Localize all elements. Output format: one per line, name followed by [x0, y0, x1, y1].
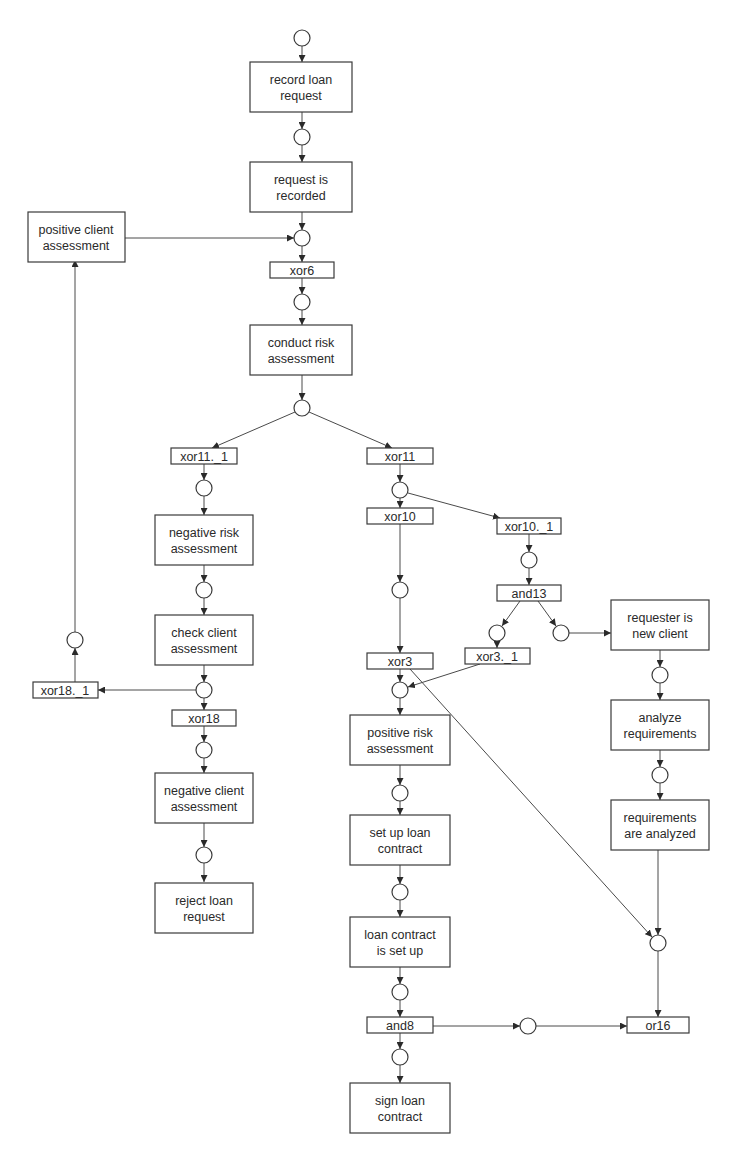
node-label: reject loan [175, 894, 233, 908]
node-label: contract [378, 1110, 423, 1124]
node-label: assessment [367, 742, 434, 756]
event-circle [520, 1018, 536, 1034]
node-label: record loan [270, 73, 333, 87]
event-circle [392, 984, 408, 1000]
event-circle [67, 632, 83, 648]
gate-xor3-1: xor3._1 [465, 648, 530, 664]
event-circle [553, 625, 569, 641]
gate-xor3: xor3 [367, 653, 433, 669]
node-label: assessment [171, 800, 238, 814]
event-circle [392, 884, 408, 900]
gate-label: xor10._1 [505, 520, 554, 534]
node-positive-risk-assessment: positive risk assessment [350, 715, 450, 765]
node-label: positive client [38, 223, 114, 237]
start-event-circle [294, 30, 310, 46]
gate-and8: and8 [367, 1017, 433, 1033]
event-circle [652, 767, 668, 783]
node-label: request [183, 910, 225, 924]
event-circle [392, 582, 408, 598]
gate-label: xor10 [384, 510, 415, 524]
gate-label: xor11 [385, 450, 415, 464]
gate-label: or16 [645, 1019, 670, 1033]
gate-label: xor18 [188, 712, 219, 726]
gate-label: xor18._1 [41, 684, 90, 698]
node-label: negative risk [169, 526, 240, 540]
node-label: negative client [164, 784, 244, 798]
gate-label: xor6 [290, 264, 314, 278]
node-positive-client-assessment: positive client assessment [28, 212, 125, 262]
event-circle [294, 129, 310, 145]
event-circle [392, 785, 408, 801]
node-label: loan contract [364, 928, 436, 942]
node-label: assessment [43, 239, 110, 253]
event-circle [652, 667, 668, 683]
event-circle [294, 400, 310, 416]
event-circle [196, 742, 212, 758]
gate-label: xor11._1 [180, 450, 228, 464]
node-sign-loan-contract: sign loan contract [350, 1083, 450, 1133]
node-label: are analyzed [624, 827, 696, 841]
gate-xor6: xor6 [270, 262, 334, 278]
node-label: contract [378, 842, 423, 856]
node-label: check client [171, 626, 237, 640]
node-label: requirements [624, 727, 697, 741]
gate-label: and8 [386, 1019, 414, 1033]
event-circle [392, 682, 408, 698]
node-label: requirements [624, 811, 697, 825]
node-negative-risk-assessment: negative risk assessment [155, 515, 253, 565]
node-label: request is [274, 173, 328, 187]
node-request-is-recorded: request is recorded [250, 162, 352, 212]
node-loan-contract-is-set-up: loan contract is set up [350, 917, 450, 967]
event-circle [294, 294, 310, 310]
gate-xor11: xor11 [367, 448, 433, 464]
node-set-up-loan-contract: set up loan contract [350, 815, 450, 865]
node-label: assessment [268, 352, 335, 366]
node-label: new client [632, 627, 688, 641]
event-circle [489, 625, 505, 641]
node-label: analyze [638, 711, 681, 725]
node-record-loan-request: record loan request [250, 62, 352, 112]
node-label: is set up [377, 944, 424, 958]
gate-label: xor3 [388, 655, 412, 669]
node-label: assessment [171, 642, 238, 656]
functions: record loan request request is recorded … [28, 62, 709, 1133]
gate-xor18-1: xor18._1 [33, 682, 98, 698]
node-label: recorded [276, 189, 325, 203]
gate-label: xor3._1 [476, 650, 518, 664]
event-circle [521, 552, 537, 568]
gate-xor10: xor10 [367, 508, 433, 524]
node-label: assessment [171, 542, 238, 556]
event-circle [392, 1049, 408, 1065]
node-label: sign loan [375, 1094, 425, 1108]
node-check-client-assessment: check client assessment [155, 615, 253, 665]
event-circle [196, 480, 212, 496]
event-circle [196, 847, 212, 863]
gate-xor10-1: xor10._1 [497, 518, 561, 534]
gate-xor18: xor18 [172, 710, 236, 726]
event-circle [196, 582, 212, 598]
node-reject-loan-request: reject loan request [155, 883, 253, 933]
node-analyze-requirements: analyze requirements [611, 700, 709, 750]
node-negative-client-assessment: negative client assessment [155, 773, 253, 823]
node-label: requester is [627, 611, 692, 625]
node-label: conduct risk [268, 336, 335, 350]
event-circle [392, 482, 408, 498]
event-circle [196, 682, 212, 698]
gate-xor11-1: xor11._1 [171, 448, 237, 464]
node-requester-is-new-client: requester is new client [611, 600, 709, 650]
node-label: positive risk [367, 726, 433, 740]
gate-or16: or16 [627, 1017, 689, 1033]
gate-and13: and13 [497, 585, 561, 601]
event-circle [650, 935, 666, 951]
process-diagram: record loan request request is recorded … [0, 0, 741, 1156]
node-label: set up loan [369, 826, 430, 840]
event-circle [294, 230, 310, 246]
node-conduct-risk-assessment: conduct risk assessment [250, 325, 352, 375]
gate-label: and13 [512, 587, 547, 601]
node-requirements-are-analyzed: requirements are analyzed [611, 800, 709, 850]
node-label: request [280, 89, 322, 103]
